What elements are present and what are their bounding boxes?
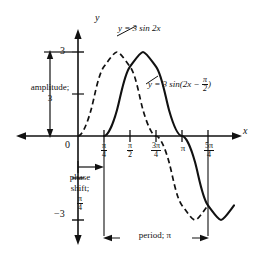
x-tick-label-pi-over-2: π 2 xyxy=(123,142,137,160)
phase-shift-arrowhead xyxy=(95,164,104,170)
x-tick-label-3pi-over-4: 3π 4 xyxy=(147,142,165,160)
solid-curve-equation-label: y = 3 sin(2x − π 2 ) xyxy=(148,76,211,94)
amplitude-annotation-line-1: amplitude; xyxy=(14,82,86,93)
origin-label: 0 xyxy=(65,140,70,150)
phase-shift-value-denominator: 4 xyxy=(77,204,83,212)
x-axis-right-arrowhead xyxy=(232,132,242,140)
plot-canvas xyxy=(0,0,264,264)
y-axis-bottom-arrowhead xyxy=(74,235,81,245)
amplitude-arrowhead-up xyxy=(47,50,53,59)
period-annotation: period; π xyxy=(120,231,190,240)
solid-equation-suffix: ) xyxy=(208,79,211,89)
x-tick-pi-numerator: π xyxy=(181,143,186,153)
x-tick-label-pi-over-4: π 4 xyxy=(97,142,111,160)
x-tick-3pi-over-4-denominator: 4 xyxy=(151,151,161,159)
x-tick-pi-over-4-denominator: 4 xyxy=(101,151,107,159)
amplitude-annotation-value: 3 xyxy=(14,93,86,104)
x-axis-left-arrowhead xyxy=(16,132,26,140)
x-axis-label: x xyxy=(243,126,247,136)
phase-shift-annotation-line-2: shift; xyxy=(58,183,102,194)
y-axis-top-arrowhead xyxy=(74,29,81,39)
trig-graph-figure: y x 3 −3 0 π 4 π 2 3π 4 π 5π 4 y = 3 sin… xyxy=(0,0,264,264)
x-tick-5pi-over-4-denominator: 4 xyxy=(204,151,214,159)
dashed-curve-equation-label: y = 3 sin 2x xyxy=(118,24,161,33)
y-tick-label-3: 3 xyxy=(60,46,65,56)
x-tick-pi-over-2-denominator: 2 xyxy=(127,151,133,159)
y-axis-label: y xyxy=(95,13,99,23)
phase-shift-annotation-line-1: phase xyxy=(58,172,102,183)
phase-shift-annotation: phase shift; π 4 xyxy=(58,172,102,212)
amplitude-annotation: amplitude; 3 xyxy=(14,82,86,105)
x-tick-label-5pi-over-4: 5π 4 xyxy=(200,142,218,160)
x-tick-label-pi: π xyxy=(176,144,190,153)
solid-equation-prefix: y = 3 sin(2x − xyxy=(148,79,202,89)
